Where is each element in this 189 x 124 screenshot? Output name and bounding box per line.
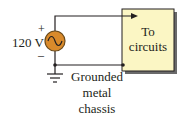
junction-dot	[121, 63, 125, 67]
minus-sign: –	[38, 48, 44, 62]
ground-label-line2: metal	[70, 86, 124, 100]
box-label-line2: circuits	[122, 40, 174, 54]
ground-label-line1: Grounded	[70, 70, 124, 84]
box-label-line1: To	[122, 25, 174, 39]
ground-label-line3: chassis	[70, 102, 124, 116]
ac-source-icon	[45, 31, 65, 51]
plus-sign: +	[38, 22, 45, 36]
ground-icon	[47, 74, 63, 82]
return-wire	[55, 51, 123, 65]
